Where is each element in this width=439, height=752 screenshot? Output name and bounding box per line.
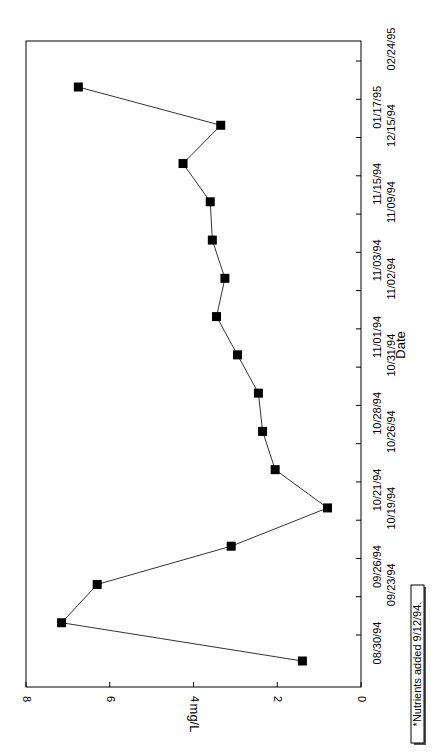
category-tick-label: 10/26/94 <box>385 410 397 453</box>
data-point-marker <box>298 657 307 666</box>
line-chart: 02468mg/L08/30/9409/23/9409/26/9410/19/9… <box>0 0 439 752</box>
category-tick-label: 01/17/95 <box>371 86 383 129</box>
category-tick-label: 08/30/94 <box>371 622 383 665</box>
svg-text:*Nutrients added 9/12/94.: *Nutrients added 9/12/94. <box>411 602 423 727</box>
data-point-marker <box>227 542 236 551</box>
category-tick-label: 10/28/94 <box>371 392 383 435</box>
data-point-marker <box>220 274 229 283</box>
data-point-marker <box>258 427 267 436</box>
data-point-marker <box>93 580 102 589</box>
value-axis-title: mg/L <box>187 704 202 733</box>
category-tick-label: 10/19/94 <box>385 487 397 530</box>
data-point-marker <box>271 465 280 474</box>
category-tick-label: 12/15/94 <box>385 104 397 147</box>
data-point-marker <box>179 159 188 168</box>
data-point-marker <box>216 121 225 130</box>
data-point-marker <box>212 312 221 321</box>
category-tick-label: 09/23/94 <box>385 563 397 606</box>
category-tick-label: 11/09/94 <box>385 181 397 223</box>
category-tick-label: 11/01/94 <box>371 316 383 358</box>
data-point-marker <box>206 197 215 206</box>
category-tick-label: 10/21/94 <box>371 469 383 512</box>
nutrients-note: *Nutrients added 9/12/94. <box>411 585 426 745</box>
category-tick-label: 11/02/94 <box>385 258 397 300</box>
category-tick-label: 09/26/94 <box>371 545 383 588</box>
category-tick-label: 11/03/94 <box>371 239 383 281</box>
data-point-marker <box>57 618 66 627</box>
data-point-marker <box>233 350 242 359</box>
series-line <box>62 87 328 661</box>
category-axis-title: Date <box>393 331 408 358</box>
plot-area <box>26 41 361 687</box>
category-tick-label: 02/24/95 <box>385 28 397 71</box>
value-tick-label: 4 <box>189 696 201 702</box>
data-point-marker <box>323 503 332 512</box>
value-tick-label: 0 <box>356 696 368 702</box>
value-tick-label: 6 <box>105 696 117 702</box>
value-tick-label: 2 <box>272 696 284 702</box>
data-point-marker <box>208 236 217 245</box>
data-point-marker <box>74 83 83 92</box>
value-tick-label: 8 <box>21 696 33 702</box>
category-tick-label: 11/15/94 <box>371 163 383 205</box>
data-point-marker <box>254 389 263 398</box>
